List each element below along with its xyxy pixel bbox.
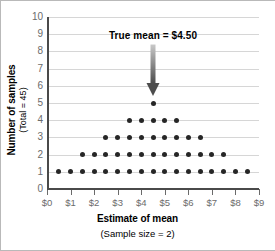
data-dot [162, 118, 167, 123]
figure-border-top [0, 0, 275, 1]
data-dot [198, 135, 203, 140]
data-dot [139, 118, 144, 123]
data-dot [92, 152, 97, 157]
y-axis-title: Number of samples (Total = 45) [0, 30, 34, 190]
data-dot [127, 118, 132, 123]
data-dot [139, 135, 144, 140]
y-tick-label: 0 [37, 184, 43, 194]
y-axis-title-sub: (Total = 45) [18, 64, 28, 155]
data-dot [174, 118, 179, 123]
data-dot [127, 135, 132, 140]
data-dot [198, 152, 203, 157]
data-dot [80, 152, 85, 157]
y-tick-label: 2 [37, 150, 43, 160]
y-axis-line [47, 17, 49, 189]
data-dot [151, 118, 156, 123]
chart-figure: Number of samples (Total = 45) 012345678… [0, 0, 275, 251]
x-axis-line [47, 188, 259, 190]
x-tick-label: $7 [207, 198, 218, 208]
gridline [47, 86, 259, 87]
data-dot [151, 169, 156, 174]
data-dot [186, 135, 191, 140]
y-tick-label: 5 [37, 98, 43, 108]
data-dot [127, 152, 132, 157]
y-tick-label: 10 [32, 12, 43, 22]
plot-area: 012345678910 $0$1$2$3$4$5$6$7$8$9 True m… [47, 17, 259, 189]
x-tick-label: $8 [230, 198, 241, 208]
gridline [47, 69, 259, 70]
data-dot [151, 152, 156, 157]
y-tick-label: 4 [37, 115, 43, 125]
data-dot [174, 135, 179, 140]
y-tick-label: 1 [37, 167, 43, 177]
data-dot [92, 169, 97, 174]
x-tick-mark [259, 189, 260, 195]
data-dot [139, 152, 144, 157]
y-tick-label: 3 [37, 132, 43, 142]
true-mean-annotation: True mean = $4.50 [109, 30, 197, 41]
data-dot [198, 169, 203, 174]
x-tick-label: $1 [65, 198, 76, 208]
x-tick-label: $2 [89, 198, 100, 208]
data-dot [151, 135, 156, 140]
x-tick-label: $5 [159, 198, 170, 208]
y-tick-label: 6 [37, 81, 43, 91]
y-tick-label: 8 [37, 46, 43, 56]
y-tick-label: 9 [37, 29, 43, 39]
x-tick-label: $6 [183, 198, 194, 208]
x-tick-label: $9 [254, 198, 265, 208]
y-tick-label: 7 [37, 64, 43, 74]
data-dot [151, 101, 156, 106]
gridline [47, 51, 259, 52]
y-axis-title-main: Number of samples [6, 64, 18, 155]
x-tick-label: $3 [112, 198, 123, 208]
x-tick-label: $0 [42, 198, 53, 208]
x-axis-title-main: Estimate of mean [0, 213, 275, 224]
x-tick-label: $4 [136, 198, 147, 208]
gridline [47, 17, 259, 18]
x-axis-title-sub: (Sample size = 2) [0, 228, 275, 239]
data-dot [186, 152, 191, 157]
